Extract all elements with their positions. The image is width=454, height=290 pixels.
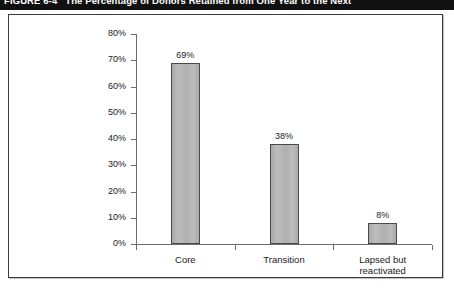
bar (368, 223, 397, 244)
chart-frame: 0%10%20%30%40%50%60%70%80% 69%38%8% Core… (8, 14, 443, 278)
y-axis-tick-label: 50% (92, 108, 126, 117)
figure-number: FIGURE 6-4 (4, 0, 57, 6)
y-axis-tick: 10% (87, 218, 136, 219)
bar (171, 63, 200, 244)
y-axis-tick: 50% (87, 113, 136, 114)
y-axis-tick-mark (131, 87, 136, 88)
figure-container: FIGURE 6-4 The Percentage of Donors Reta… (0, 0, 454, 290)
figure-title-bar: FIGURE 6-4 The Percentage of Donors Reta… (0, 0, 454, 10)
bar-value-label: 69% (155, 50, 215, 60)
bar (270, 144, 299, 244)
y-axis-tick-mark (131, 192, 136, 193)
plot-area: 0%10%20%30%40%50%60%70%80% 69%38%8% Core… (9, 15, 444, 279)
y-axis-tick-label: 40% (92, 134, 126, 143)
y-axis-tick: 60% (87, 87, 136, 88)
y-axis-line (136, 34, 137, 245)
y-axis-tick-label: 60% (92, 82, 126, 91)
y-axis-tick-mark (131, 218, 136, 219)
x-axis-tick (333, 245, 334, 250)
y-axis-tick-mark (131, 139, 136, 140)
category-label: Core (140, 254, 230, 265)
y-axis-tick: 0% (87, 244, 136, 245)
x-axis-line (136, 244, 432, 245)
y-axis-tick: 70% (87, 60, 136, 61)
bar-value-label: 38% (254, 131, 314, 141)
x-axis-tick (432, 245, 433, 250)
y-axis-tick: 80% (87, 34, 136, 35)
y-axis-tick: 30% (87, 165, 136, 166)
y-axis-tick: 40% (87, 139, 136, 140)
y-axis-tick-mark (131, 165, 136, 166)
y-axis-tick-mark (131, 60, 136, 61)
y-axis-tick-label: 30% (92, 160, 126, 169)
x-axis-tick (136, 245, 137, 250)
y-axis-tick-label: 80% (92, 29, 126, 38)
figure-title-text: The Percentage of Donors Retained from O… (65, 0, 351, 6)
category-label: Transition (239, 254, 329, 265)
y-axis-tick-label: 70% (92, 55, 126, 64)
y-axis-tick-label: 20% (92, 187, 126, 196)
category-label: Lapsed butreactivated (338, 254, 428, 276)
bar-value-label: 8% (353, 210, 413, 220)
y-axis-tick: 20% (87, 192, 136, 193)
x-axis-tick (235, 245, 236, 250)
y-axis-tick-mark (131, 34, 136, 35)
y-axis-tick-label: 0% (92, 239, 126, 248)
y-axis-tick-mark (131, 113, 136, 114)
figure-title-inner: FIGURE 6-4 The Percentage of Donors Reta… (4, 0, 351, 6)
y-axis-tick-label: 10% (92, 213, 126, 222)
